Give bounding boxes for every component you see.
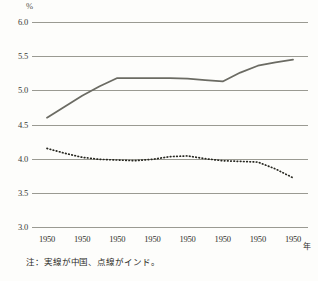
series-line-china bbox=[47, 60, 293, 118]
series-line-india bbox=[47, 148, 293, 177]
chart-footnote: 注：実線が中国、点線がインド。 bbox=[26, 255, 160, 267]
series-layer bbox=[0, 0, 318, 281]
line-chart: % 6.05.55.04.54.03.53.0 1950195019501950… bbox=[0, 0, 318, 281]
